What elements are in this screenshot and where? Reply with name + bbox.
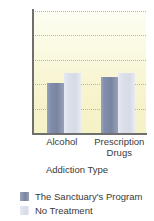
bar-sanctuary-alcohol (47, 83, 64, 133)
x-axis-line (32, 133, 147, 135)
x-tick-label-alcohol: Alcohol (33, 136, 91, 158)
x-tick-label-line: Prescription (94, 136, 144, 147)
x-tick-labels: Alcohol Prescription Drugs (33, 136, 148, 158)
x-tick-label-line: Alcohol (46, 136, 77, 147)
y-axis-line (32, 9, 34, 135)
legend-item-sanctuary: The Sanctuary's Program (20, 191, 154, 202)
legend-item-no-treatment: No Treatment (20, 205, 154, 216)
bar-group-container (33, 11, 146, 133)
bar-sanctuary-prescription (101, 77, 118, 133)
x-axis-title: Addiction Type (0, 164, 154, 175)
bar-notreatment-alcohol (64, 73, 81, 133)
plot-region: 1 0.8 0.6 0.4 0.2 0 Alcohol Prescription… (0, 0, 154, 140)
legend-label: The Sanctuary's Program (35, 191, 142, 202)
legend-label: No Treatment (35, 205, 93, 216)
legend-swatch-icon (20, 206, 29, 215)
x-tick-label-line: Drugs (91, 147, 149, 158)
x-tick-label-prescription-drugs: Prescription Drugs (91, 136, 149, 158)
bar-chart: 1 0.8 0.6 0.4 0.2 0 Alcohol Prescription… (0, 0, 154, 221)
legend-swatch-icon (20, 192, 29, 201)
legend: The Sanctuary's Program No Treatment (20, 191, 154, 219)
bar-notreatment-prescription (118, 73, 135, 133)
